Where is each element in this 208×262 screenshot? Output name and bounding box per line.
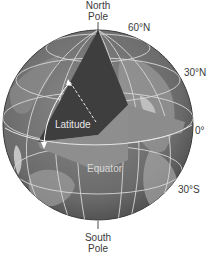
- globe-graphic: [0, 0, 208, 262]
- globe-latitude-diagram: North Pole 60°N 30°N 0° 30°S Latitude Eq…: [0, 0, 208, 262]
- latitude-60n-label: 60°N: [128, 22, 150, 33]
- north-pole-label-line2: Pole: [78, 11, 118, 22]
- south-pole-label-line2: Pole: [78, 243, 118, 254]
- north-pole-label: North Pole: [78, 0, 118, 22]
- equator-label: Equator: [87, 163, 122, 174]
- south-pole-label-line1: South: [78, 232, 118, 243]
- latitude-label: Latitude: [55, 119, 91, 130]
- latitude-30n-label: 30°N: [184, 67, 206, 78]
- south-pole-label: South Pole: [78, 232, 118, 254]
- latitude-30s-label: 30°S: [178, 184, 200, 195]
- latitude-0-label: 0°: [195, 125, 205, 136]
- north-pole-label-line1: North: [78, 0, 118, 11]
